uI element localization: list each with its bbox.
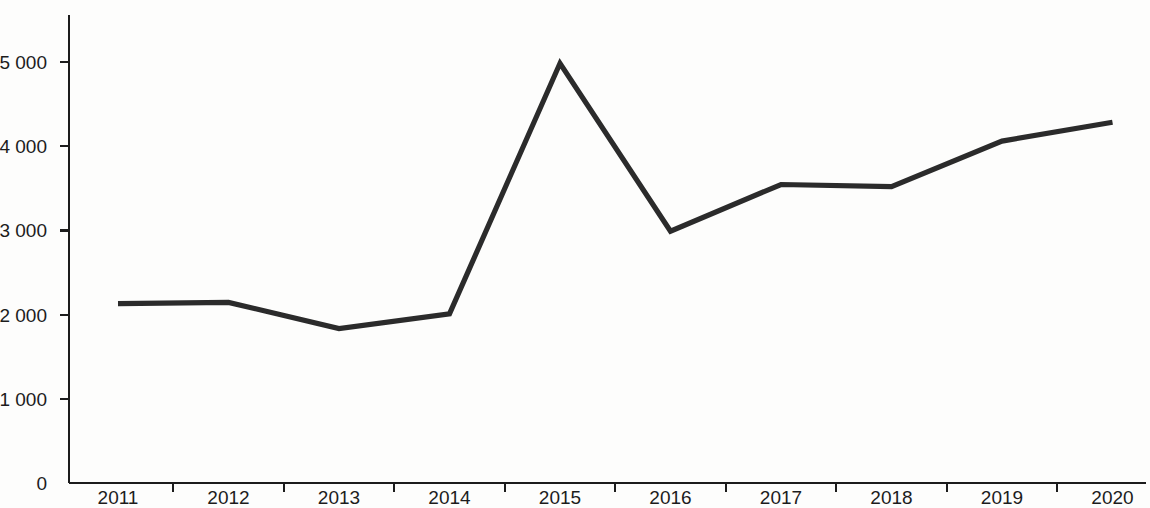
- line-chart: 01 0002 0003 0004 0005 000 2011201220132…: [0, 0, 1150, 508]
- x-tick-label: 2011: [98, 487, 139, 508]
- chart-canvas: 01 0002 0003 0004 0005 000 2011201220132…: [0, 0, 1150, 508]
- x-tick-label: 2017: [760, 487, 802, 508]
- x-tick-label: 2020: [1091, 487, 1133, 508]
- x-tick-label: 2013: [318, 487, 360, 508]
- x-tick-label: 2016: [649, 487, 691, 508]
- y-tick-label: 3 000: [0, 220, 47, 241]
- x-tick-label: 2014: [428, 487, 471, 508]
- chart-background: [0, 0, 1150, 508]
- y-tick-label: 4 000: [0, 136, 47, 157]
- y-tick-label: 2 000: [0, 305, 47, 326]
- x-tick-label: 2015: [539, 487, 581, 508]
- x-tick-label: 2018: [870, 487, 912, 508]
- x-tick-label: 2019: [981, 487, 1023, 508]
- y-tick-label: 5 000: [0, 52, 47, 73]
- y-tick-label: 1 000: [0, 389, 47, 410]
- y-tick-label: 0: [36, 473, 47, 494]
- x-tick-label: 2012: [207, 487, 249, 508]
